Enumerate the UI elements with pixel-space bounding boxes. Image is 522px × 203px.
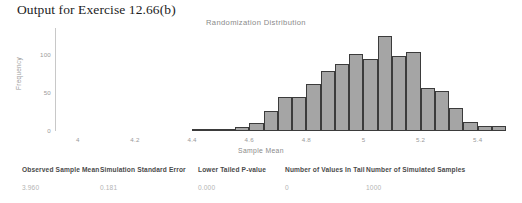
table-cell-value: 1000: [366, 184, 381, 191]
histogram-bar: [264, 111, 278, 131]
histogram-bar: [435, 91, 449, 131]
histogram-bar: [235, 127, 249, 131]
table-column-header: Number of Simulated Samples: [366, 166, 465, 173]
histogram-bar: [192, 129, 206, 131]
x-tick-label: 4.4: [177, 136, 207, 143]
x-tick-label: 5.4: [463, 136, 493, 143]
histogram-bar: [249, 123, 263, 131]
histogram-bar: [378, 36, 392, 131]
histogram-bar: [463, 122, 477, 131]
x-tick-label: 5.2: [406, 136, 436, 143]
table-column-header: Number of Values In Tail: [285, 166, 365, 173]
table-cell-value: 3.960: [22, 184, 39, 191]
histogram-bar: [349, 54, 363, 131]
x-tick-label: 4.6: [234, 136, 264, 143]
table-column-header: Observed Sample Mean: [22, 166, 99, 173]
x-tick-label: 4: [63, 136, 93, 143]
histogram-bars: [0, 14, 522, 138]
table-cell-value: 0.181: [100, 184, 117, 191]
table-column-header: Simulation Standard Error: [100, 166, 186, 173]
histogram-bar: [406, 52, 420, 131]
histogram-bar: [206, 129, 220, 131]
randomization-distribution-chart: Randomization Distribution Frequency 050…: [0, 14, 522, 162]
histogram-bar: [363, 59, 377, 131]
histogram-bar: [478, 126, 492, 131]
histogram-bar: [278, 97, 292, 131]
histogram-bar: [335, 64, 349, 131]
x-tick-label: 4.2: [120, 136, 150, 143]
histogram-bar: [221, 129, 235, 131]
histogram-bar: [421, 88, 435, 131]
histogram-bar: [306, 84, 320, 131]
x-axis-title: Sample Mean: [0, 147, 522, 154]
histogram-bar: [492, 126, 506, 131]
histogram-bar: [449, 108, 463, 131]
x-tick-label: 5: [348, 136, 378, 143]
table-cell-value: 0.000: [198, 184, 215, 191]
x-tick-label: 4.8: [291, 136, 321, 143]
histogram-bar: [392, 56, 406, 131]
histogram-bar: [321, 71, 335, 131]
histogram-bar: [292, 97, 306, 131]
table-cell-value: 0: [285, 184, 289, 191]
table-column-header: Lower Tailed P-value: [198, 166, 266, 173]
